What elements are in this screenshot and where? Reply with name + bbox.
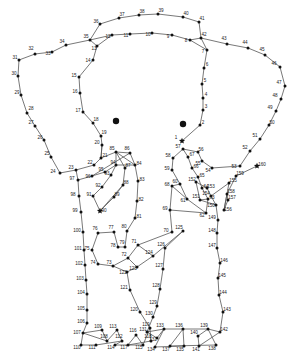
dot-marker[interactable] — [171, 34, 174, 37]
dot-marker[interactable] — [113, 231, 116, 234]
dot-marker[interactable] — [91, 175, 94, 178]
dot-marker[interactable] — [247, 47, 250, 50]
dot-marker[interactable] — [91, 249, 94, 252]
dot-marker[interactable] — [82, 231, 85, 234]
dot-marker[interactable] — [26, 112, 29, 115]
dot-marker[interactable] — [129, 33, 132, 36]
dot-marker[interactable] — [20, 94, 23, 97]
dot-marker[interactable] — [201, 160, 204, 163]
dot-marker[interactable] — [78, 195, 81, 198]
dot-marker[interactable] — [275, 110, 278, 113]
dot-marker[interactable] — [264, 54, 267, 57]
dot-marker[interactable] — [112, 265, 115, 268]
dot-marker[interactable] — [101, 144, 104, 147]
dot-marker[interactable] — [259, 138, 262, 141]
dot-marker[interactable] — [97, 263, 100, 266]
dot-marker[interactable] — [115, 151, 118, 154]
dot-marker[interactable] — [186, 198, 189, 201]
connection-line — [93, 196, 100, 211]
dot-number-label: 19 — [101, 130, 107, 135]
dot-marker[interactable] — [82, 111, 85, 114]
dot-marker[interactable] — [179, 183, 182, 186]
dot-marker[interactable] — [171, 185, 174, 188]
dot-marker[interactable] — [171, 231, 174, 234]
dot-marker[interactable] — [99, 23, 102, 26]
dot-marker[interactable] — [79, 92, 82, 95]
dot-marker[interactable] — [172, 157, 175, 160]
dot-marker[interactable] — [86, 309, 89, 312]
dot-number-label: 84 — [136, 161, 142, 166]
dot-marker[interactable] — [82, 332, 85, 335]
dot-marker[interactable] — [106, 340, 109, 343]
dot-marker[interactable] — [249, 150, 252, 153]
dot-marker[interactable] — [50, 156, 53, 159]
connection-line — [102, 175, 111, 187]
dot-marker[interactable] — [189, 39, 192, 42]
dot-marker[interactable] — [78, 76, 81, 79]
dot-marker[interactable] — [80, 211, 83, 214]
dot-marker[interactable] — [34, 53, 37, 56]
dot-marker[interactable] — [89, 39, 92, 42]
dot-number-label: 92 — [95, 183, 101, 188]
dot-marker[interactable] — [75, 169, 78, 172]
dot-marker[interactable] — [117, 246, 120, 249]
dot-number-label: 151 — [192, 194, 200, 199]
dot-marker[interactable] — [215, 204, 218, 207]
connection-line — [76, 170, 78, 180]
dot-marker[interactable] — [124, 246, 127, 249]
dot-marker[interactable] — [92, 195, 95, 198]
dot-marker[interactable] — [97, 232, 100, 235]
dot-marker[interactable] — [65, 44, 68, 47]
dot-marker[interactable] — [280, 98, 283, 101]
dot-marker[interactable] — [127, 257, 130, 260]
dot-marker[interactable] — [43, 139, 46, 142]
connection-line — [202, 161, 212, 168]
dot-marker[interactable] — [59, 172, 62, 175]
dot-marker[interactable] — [279, 66, 282, 69]
dot-marker[interactable] — [137, 244, 140, 247]
dot-number-label: 42 — [201, 32, 207, 37]
connection-line — [81, 333, 83, 345]
dot-marker[interactable] — [217, 219, 220, 222]
dot-marker[interactable] — [151, 32, 154, 35]
dot-marker[interactable] — [216, 247, 219, 250]
dot-marker[interactable] — [17, 75, 20, 78]
dot-marker[interactable] — [284, 85, 287, 88]
dot-marker[interactable] — [86, 293, 89, 296]
dot-marker[interactable] — [216, 232, 219, 235]
dot-marker[interactable] — [169, 209, 172, 212]
dot-marker[interactable] — [211, 167, 214, 170]
dot-number-label: 128 — [152, 283, 160, 288]
connection-line — [52, 45, 66, 52]
dot-marker[interactable] — [51, 51, 54, 54]
dot-marker[interactable] — [101, 186, 104, 189]
dot-marker[interactable] — [121, 340, 124, 343]
dot-marker[interactable] — [139, 311, 142, 314]
dot-marker[interactable] — [92, 59, 95, 62]
dot-marker[interactable] — [18, 59, 21, 62]
dot-marker[interactable] — [85, 279, 88, 282]
dot-number-label: 122 — [119, 270, 127, 275]
dot-marker[interactable] — [226, 43, 229, 46]
dot-number-label: 147 — [208, 243, 216, 248]
dot-number-label: 146 — [220, 258, 228, 263]
dot-marker[interactable] — [135, 334, 138, 337]
dot-marker[interactable] — [129, 152, 132, 155]
dot-marker[interactable] — [110, 174, 113, 177]
connection-line — [66, 40, 90, 45]
dot-marker[interactable] — [93, 164, 96, 167]
dot-marker[interactable] — [206, 49, 209, 52]
dot-marker[interactable] — [182, 148, 185, 151]
dot-marker[interactable] — [205, 212, 208, 215]
dot-number-label: 110 — [73, 345, 81, 350]
dot-marker[interactable] — [86, 322, 89, 325]
dot-marker[interactable] — [239, 165, 242, 168]
dot-marker[interactable] — [129, 289, 132, 292]
dot-marker[interactable] — [34, 125, 37, 128]
dot-marker[interactable] — [126, 230, 129, 233]
connection-line — [216, 205, 218, 220]
dot-marker[interactable] — [111, 34, 114, 37]
dot-marker[interactable] — [171, 169, 174, 172]
dot-marker[interactable] — [84, 264, 87, 267]
dot-marker[interactable] — [77, 179, 80, 182]
